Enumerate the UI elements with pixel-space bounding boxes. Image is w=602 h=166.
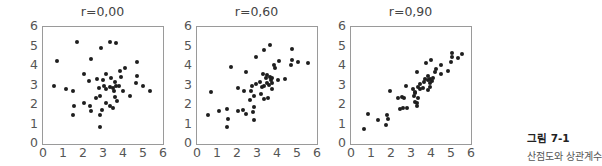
x-tick-label: 5	[136, 147, 150, 159]
x-tick-label: 1	[210, 147, 224, 159]
data-point	[82, 101, 86, 105]
plot-area	[196, 26, 318, 145]
x-tick-label: 4	[270, 147, 284, 159]
data-point	[119, 75, 123, 79]
x-tick-label: 4	[116, 147, 130, 159]
data-point	[123, 66, 127, 70]
y-tick-label: 6	[24, 20, 38, 32]
data-point	[270, 87, 274, 91]
data-point	[424, 61, 428, 65]
data-point	[217, 109, 221, 113]
data-point	[405, 106, 409, 110]
data-point	[64, 87, 68, 91]
data-point	[439, 72, 443, 76]
scatter-panel-r060: r=0,6001234560123456	[154, 0, 314, 166]
figure-title: 산점도와 상관계수	[527, 148, 602, 163]
data-point	[242, 89, 246, 93]
y-tick-label: 1	[178, 118, 192, 130]
data-point	[248, 98, 252, 102]
data-point	[98, 113, 102, 117]
data-point	[88, 104, 92, 108]
data-point	[118, 69, 122, 73]
data-point	[258, 80, 262, 84]
data-point	[135, 60, 139, 64]
x-tick-label: 5	[290, 147, 304, 159]
y-tick-label: 4	[24, 59, 38, 71]
data-point	[115, 99, 119, 103]
data-point	[55, 59, 59, 63]
data-point	[252, 94, 256, 98]
data-point	[386, 117, 390, 121]
plot-area	[350, 26, 472, 145]
data-point	[128, 94, 132, 98]
y-tick-label: 6	[178, 20, 192, 32]
data-point	[111, 106, 115, 110]
plot-area	[42, 26, 164, 145]
data-point	[388, 89, 392, 93]
data-point	[75, 40, 79, 44]
data-point	[296, 60, 300, 64]
data-point	[225, 107, 229, 111]
data-point	[418, 87, 422, 91]
panel-title: r=0,00	[42, 4, 163, 19]
data-point	[415, 104, 419, 108]
data-point	[225, 125, 229, 129]
data-point	[446, 69, 450, 73]
data-point	[244, 70, 248, 74]
y-tick-label: 3	[332, 79, 346, 91]
data-point	[236, 109, 240, 113]
data-point	[104, 72, 108, 76]
data-point	[148, 89, 152, 93]
data-point	[290, 47, 294, 51]
data-point	[412, 94, 416, 98]
data-point	[229, 65, 233, 69]
x-tick-label: 3	[404, 147, 418, 159]
x-tick-label: 1	[56, 147, 70, 159]
data-point	[262, 48, 266, 52]
figure-number: 그림 7-1	[527, 130, 602, 145]
data-point	[134, 81, 138, 85]
data-point	[52, 84, 56, 88]
y-tick-label: 3	[178, 79, 192, 91]
data-point	[141, 84, 145, 88]
data-point	[276, 78, 280, 82]
y-tick-label: 1	[24, 118, 38, 130]
data-point	[87, 79, 91, 83]
y-tick-label: 2	[24, 98, 38, 110]
data-point	[98, 125, 102, 129]
data-point	[396, 96, 400, 100]
y-tick-label: 4	[178, 59, 192, 71]
data-point	[449, 60, 453, 64]
x-tick-label: 1	[364, 147, 378, 159]
data-point	[71, 89, 75, 93]
y-tick-label: 4	[332, 59, 346, 71]
data-point	[112, 89, 116, 93]
data-point	[290, 58, 294, 62]
data-point	[428, 85, 432, 89]
x-tick-label: 3	[96, 147, 110, 159]
data-point	[206, 113, 210, 117]
y-tick-label: 5	[24, 40, 38, 52]
data-point	[209, 90, 213, 94]
data-point	[254, 55, 258, 59]
data-point	[114, 41, 118, 45]
x-tick-label: 2	[76, 147, 90, 159]
x-tick-label: 2	[384, 147, 398, 159]
data-point	[89, 109, 93, 113]
data-point	[415, 70, 419, 74]
data-point	[97, 86, 101, 90]
data-point	[413, 100, 417, 104]
x-tick-label: 6	[464, 147, 478, 159]
data-point	[283, 77, 287, 81]
figure-caption: 그림 7-1 산점도와 상관계수	[527, 130, 602, 163]
data-point	[236, 86, 240, 90]
data-point	[244, 112, 248, 116]
data-point	[72, 104, 76, 108]
x-tick-label: 5	[444, 147, 458, 159]
data-point	[95, 77, 99, 81]
data-point	[89, 57, 93, 61]
data-point	[100, 108, 104, 112]
y-tick-label: 2	[178, 98, 192, 110]
data-point	[104, 87, 108, 91]
data-point	[226, 117, 230, 121]
